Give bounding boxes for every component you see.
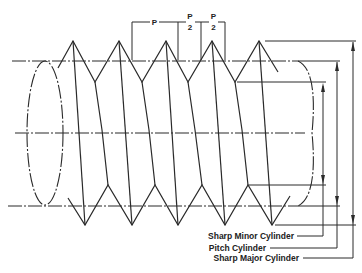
thread-profile-bottom (68, 185, 290, 225)
arrow-head (321, 175, 325, 184)
thread-diagram-svg: P P 2 P 2 Sharp Minor Cylinder Pitch Cyl… (0, 0, 362, 273)
label-sharp-minor-cylinder: Sharp Minor Cylinder (208, 231, 295, 241)
arrow-head (335, 62, 339, 71)
minor-diameter-dimension (237, 82, 326, 236)
pitch-dimension: P P 2 P 2 (132, 12, 225, 60)
major-diameter-dimension (265, 41, 356, 258)
half-pitch-2-denominator: 2 (211, 23, 216, 32)
label-pitch-cylinder: Pitch Cylinder (209, 243, 267, 253)
pitch-diameter-dimension (270, 61, 340, 248)
pitch-label: P (152, 18, 158, 27)
thread-diagram: P P 2 P 2 Sharp Minor Cylinder Pitch Cyl… (0, 0, 362, 273)
arrow-head (351, 215, 355, 224)
arrow-head (335, 196, 339, 205)
arrow-head (321, 83, 325, 92)
arrow-head (351, 42, 355, 51)
half-pitch-2-numerator: P (211, 12, 217, 21)
half-pitch-1-denominator: 2 (188, 23, 193, 32)
label-sharp-major-cylinder: Sharp Major Cylinder (214, 253, 300, 263)
half-pitch-1-numerator: P (187, 12, 193, 21)
